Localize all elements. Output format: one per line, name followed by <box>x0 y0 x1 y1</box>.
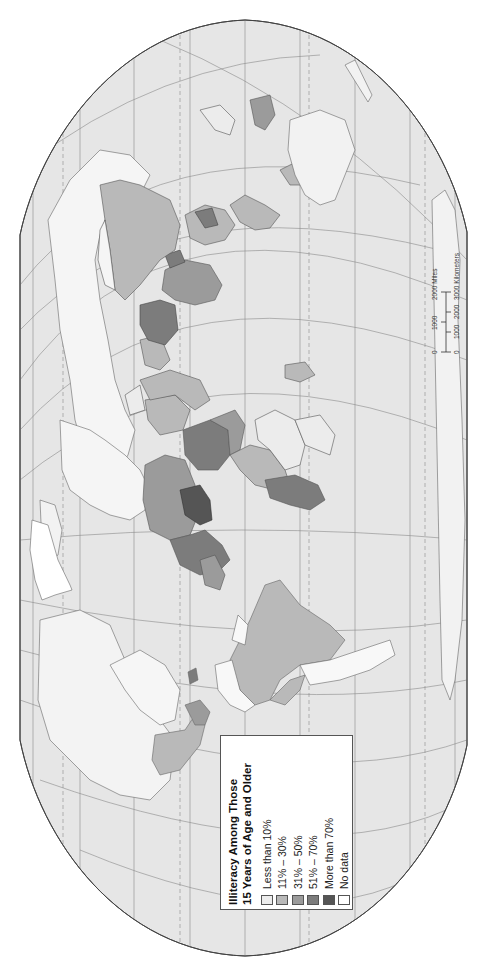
scale-km-0: 0 <box>453 350 460 354</box>
legend-item: 31% – 50% <box>290 742 306 905</box>
legend-item: No data <box>337 742 353 905</box>
legend-title-line1: Illiteracy Among Those <box>226 742 240 905</box>
legend-label: More than 70% <box>323 818 335 889</box>
scale-miles-2000: 2000 Miles <box>431 269 438 300</box>
legend-item: 11% – 30% <box>275 742 291 905</box>
legend-label: 51% – 70% <box>307 835 319 889</box>
legend-item: Less than 10% <box>259 742 275 905</box>
legend-swatch <box>307 895 319 905</box>
legend-item: 51% – 70% <box>306 742 322 905</box>
legend-label: 31% – 50% <box>292 835 304 889</box>
legend-swatch <box>276 895 288 905</box>
legend-label: 11% – 30% <box>276 836 288 889</box>
scale-km-2000: 2000 <box>453 305 460 319</box>
scale-bar: 0 1000 2000 Miles 0 1000 2000 3000 Kilom… <box>425 262 467 358</box>
scale-miles-0: 0 <box>431 350 438 354</box>
legend-title-line2: 15 Years of Age and Older <box>240 742 254 905</box>
legend-swatch <box>292 895 304 905</box>
map-legend: Illiteracy Among Those 15 Years of Age a… <box>220 735 353 910</box>
legend-swatch <box>261 895 273 905</box>
legend-swatch <box>338 895 350 905</box>
scale-km-1000: 1000 <box>453 325 460 339</box>
scale-miles-1000: 1000 <box>431 316 438 330</box>
legend-label: No data <box>338 852 350 889</box>
legend-label: Less than 10% <box>261 820 273 889</box>
legend-item: More than 70% <box>321 742 337 905</box>
legend-swatch <box>323 895 335 905</box>
scale-km-3000: 3000 Kilometers <box>453 253 460 300</box>
